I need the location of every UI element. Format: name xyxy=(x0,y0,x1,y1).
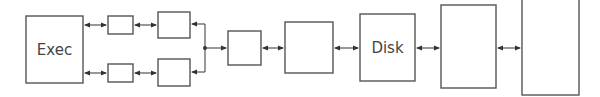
disk-label: Disk xyxy=(371,39,404,57)
exec-label: Exec xyxy=(37,41,72,59)
cache-box xyxy=(285,22,333,73)
controller-top-box xyxy=(158,12,190,38)
storage-box-1 xyxy=(441,5,496,88)
buffer-top-box xyxy=(108,16,133,34)
controller-bottom-box xyxy=(158,59,190,86)
mux-box xyxy=(228,31,261,65)
block-diagram: Exec Disk xyxy=(0,0,600,97)
buffer-bottom-box xyxy=(108,64,133,82)
storage-box-2 xyxy=(522,0,579,95)
